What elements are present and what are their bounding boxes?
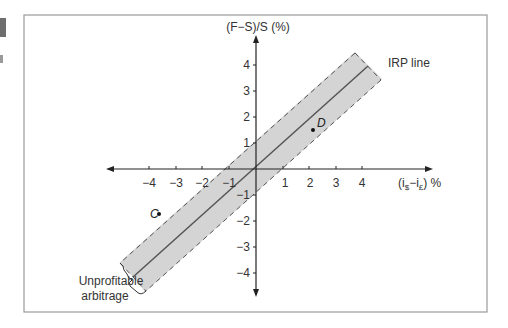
- irp-line-label: IRP line: [388, 56, 430, 70]
- x-tick-label: 4: [359, 176, 366, 190]
- point-c-label: C: [150, 207, 159, 221]
- x-tick-label: −3: [169, 176, 183, 190]
- x-tick-label: 2: [307, 176, 314, 190]
- y-tick-label: 4: [243, 58, 250, 72]
- point-d-label: D: [317, 116, 326, 130]
- irp-chart: −4 −3 −2 −1 1 2 3 4 4 3 2 1 −1 −2 −3 −4 …: [0, 0, 508, 328]
- y-tick-label: −2: [236, 214, 250, 228]
- y-tick-label: 1: [243, 136, 250, 150]
- point-d: [311, 128, 315, 132]
- y-tick-label: 3: [243, 84, 250, 98]
- x-axis-title-prefix: (i: [398, 176, 405, 190]
- y-tick-label: −4: [236, 266, 250, 280]
- x-tick-label: 1: [282, 176, 289, 190]
- y-axis-title: (F−S)/S (%): [226, 20, 290, 34]
- y-tick-label: 2: [243, 110, 250, 124]
- x-tick-label: −2: [195, 176, 209, 190]
- x-tick-label: 3: [333, 176, 340, 190]
- y-tick-label: −1: [236, 188, 250, 202]
- x-tick-label: −1: [222, 176, 236, 190]
- y-tick-label: −3: [236, 240, 250, 254]
- x-axis-title-mid: −i: [409, 176, 419, 190]
- x-axis-title-suffix: ) %: [423, 176, 441, 190]
- unprofitable-label-line1: Unprofitable: [79, 274, 144, 288]
- unprofitable-label-line2: arbitrage: [81, 289, 129, 303]
- x-tick-label: −4: [142, 176, 156, 190]
